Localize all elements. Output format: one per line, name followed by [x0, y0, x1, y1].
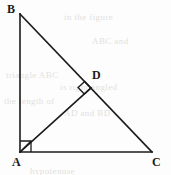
geometry-figure: in the figure ABC and triangle ABC is ri…: [0, 0, 171, 175]
vertex-label-a: A: [12, 156, 21, 168]
vertex-label-b: B: [7, 3, 15, 15]
vertex-label-c: C: [152, 156, 161, 168]
right-angle-at-a-marker: [20, 141, 31, 152]
right-angle-at-d-marker: [78, 82, 91, 95]
triangle-diagram-svg: [0, 0, 171, 175]
vertex-label-d: D: [92, 69, 101, 81]
